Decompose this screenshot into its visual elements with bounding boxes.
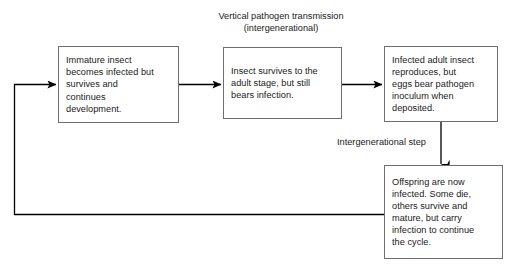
node-offspring-infected-text: Offspring are now infected. Some die, ot…	[392, 176, 474, 249]
diagram-canvas: Vertical pathogen transmission (intergen…	[0, 0, 518, 269]
node-infected-adult-reproduces[interactable]: Infected adult insect reproduces, but eg…	[384, 46, 498, 122]
node-immature-insect[interactable]: Immature insect becomes infected but sur…	[58, 46, 179, 123]
node-immature-insect-text: Immature insect becomes infected but sur…	[66, 54, 154, 114]
diagram-title: Vertical pathogen transmission (intergen…	[186, 11, 376, 34]
intergenerational-step-label: Intergenerational step	[337, 137, 439, 149]
node-adult-insect[interactable]: Insect survives to the adult stage, but …	[223, 47, 342, 119]
node-offspring-infected[interactable]: Offspring are now infected. Some die, ot…	[384, 165, 503, 259]
node-adult-insect-text: Insect survives to the adult stage, but …	[231, 65, 318, 101]
node-infected-adult-reproduces-text: Infected adult insect reproduces, but eg…	[392, 54, 474, 114]
